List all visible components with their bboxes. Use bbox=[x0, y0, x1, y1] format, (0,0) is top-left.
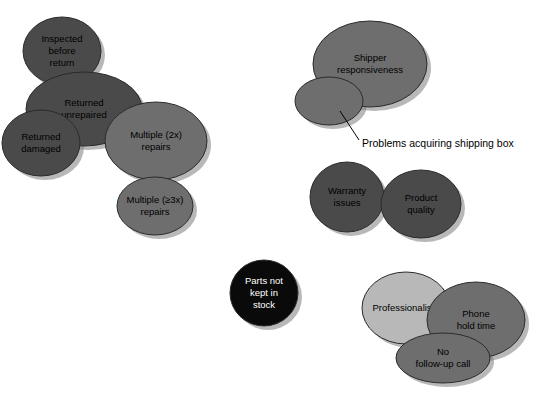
product-quality[interactable]: Productquality bbox=[381, 170, 461, 238]
diagram-canvas: InspectedbeforereturnReturnedunrepairedR… bbox=[0, 0, 537, 403]
parts-not-kept-in-stock-ellipse[interactable] bbox=[230, 260, 298, 326]
returned-damaged-ellipse[interactable] bbox=[2, 110, 80, 176]
parts-cluster: Parts notkept instock bbox=[230, 260, 298, 326]
callout-layer: Problems acquiring shipping box bbox=[340, 111, 515, 149]
multiple-2x-repairs-ellipse[interactable] bbox=[105, 102, 207, 180]
warranty-issues[interactable]: Warrantyissues bbox=[310, 162, 384, 232]
product-quality-ellipse[interactable] bbox=[381, 170, 461, 238]
problems-acquiring-shipping-box-ellipse[interactable] bbox=[295, 77, 363, 125]
no-follow-up-call-ellipse[interactable] bbox=[396, 333, 490, 383]
shipping-cluster: Shipperresponsiveness bbox=[295, 21, 427, 125]
problems-acquiring-shipping-box-callout-text: Problems acquiring shipping box bbox=[362, 137, 515, 149]
returned-damaged[interactable]: Returneddamaged bbox=[2, 110, 80, 176]
venn-diagram: InspectedbeforereturnReturnedunrepairedR… bbox=[0, 0, 537, 403]
no-follow-up-call[interactable]: Nofollow-up call bbox=[396, 333, 490, 383]
quality-cluster: WarrantyissuesProductquality bbox=[310, 162, 461, 238]
warranty-issues-ellipse[interactable] bbox=[310, 162, 384, 232]
multiple-3x-repairs-ellipse[interactable] bbox=[117, 177, 193, 235]
multiple-3x-repairs[interactable]: Multiple (≥3x)repairs bbox=[117, 177, 193, 235]
multiple-2x-repairs[interactable]: Multiple (2x)repairs bbox=[105, 102, 207, 180]
parts-not-kept-in-stock[interactable]: Parts notkept instock bbox=[230, 260, 298, 326]
support-cluster: ProfessionalismPhonehold timeNofollow-up… bbox=[362, 272, 525, 383]
problems-acquiring-shipping-box-callout: Problems acquiring shipping box bbox=[340, 111, 515, 149]
problems-acquiring-shipping-box[interactable] bbox=[295, 77, 363, 125]
